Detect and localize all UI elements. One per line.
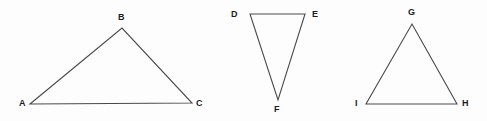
triangle-abc-outline	[30, 28, 192, 104]
vertex-label-i: I	[355, 99, 358, 108]
vertex-label-d: D	[231, 10, 238, 19]
triangle-def-outline	[250, 14, 305, 100]
vertex-label-g: G	[408, 8, 415, 17]
figure-canvas: A B C D E F G H I	[0, 0, 487, 121]
vertex-label-b: B	[118, 13, 125, 22]
vertex-label-a: A	[19, 99, 26, 108]
triangles-svg	[0, 0, 487, 121]
vertex-label-f: F	[274, 105, 280, 114]
vertex-label-h: H	[462, 99, 469, 108]
triangle-ghi-outline	[366, 24, 457, 104]
vertex-label-e: E	[312, 10, 318, 19]
vertex-label-c: C	[196, 99, 203, 108]
